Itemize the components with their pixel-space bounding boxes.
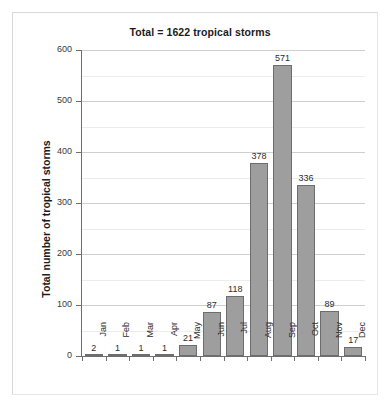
bar-value-jul: 118 — [224, 285, 248, 294]
bar-value-dec: 17 — [341, 336, 365, 345]
y-tick-label: 100 — [44, 300, 72, 309]
gridline-major — [82, 254, 365, 255]
y-tick-label: 300 — [44, 198, 72, 207]
gridline-major — [82, 203, 365, 204]
chart-page: Total = 1622 tropical storms Total numbe… — [0, 0, 391, 403]
y-tick-label: 0 — [44, 351, 72, 360]
y-tick-label: 600 — [44, 45, 72, 54]
chart-title: Total = 1622 tropical storms — [40, 26, 360, 38]
bar-value-sep: 571 — [271, 54, 295, 63]
gridline-major — [82, 101, 365, 102]
y-tick-mark — [76, 254, 81, 255]
x-label-aug: Aug — [263, 322, 273, 362]
bar-value-jan: 2 — [82, 344, 106, 353]
bar-value-mar: 1 — [129, 344, 153, 353]
gridline-major — [82, 50, 365, 51]
y-tick-mark — [76, 356, 81, 357]
bar-sep — [273, 65, 291, 356]
gridline-minor — [82, 76, 365, 77]
y-tick-mark — [76, 305, 81, 306]
x-label-jul: Jul — [239, 322, 249, 362]
x-label-mar: Mar — [145, 322, 155, 362]
gridline-minor — [82, 280, 365, 281]
x-label-feb: Feb — [121, 322, 131, 362]
y-tick-label: 500 — [44, 96, 72, 105]
y-tick-mark — [76, 101, 81, 102]
x-label-jan: Jan — [98, 322, 108, 362]
bar-value-oct: 336 — [294, 174, 318, 183]
x-tick-mark — [82, 357, 83, 361]
y-tick-label: 400 — [44, 147, 72, 156]
y-tick-label: 200 — [44, 249, 72, 258]
gridline-minor — [82, 178, 365, 179]
bar-value-feb: 1 — [106, 344, 130, 353]
plot-area — [82, 50, 365, 356]
bar-value-jun: 87 — [200, 301, 224, 310]
gridline-major — [82, 152, 365, 153]
x-label-oct: Oct — [310, 322, 320, 362]
gridline-minor — [82, 127, 365, 128]
bar-value-nov: 89 — [318, 300, 342, 309]
gridline-minor — [82, 229, 365, 230]
y-tick-mark — [76, 50, 81, 51]
y-tick-mark — [76, 203, 81, 204]
x-label-sep: Sep — [287, 322, 297, 362]
x-label-jun: Jun — [216, 322, 226, 362]
y-tick-mark — [76, 152, 81, 153]
bar-value-aug: 378 — [247, 152, 271, 161]
bar-value-apr: 1 — [153, 344, 177, 353]
bar-value-may: 21 — [176, 334, 200, 343]
